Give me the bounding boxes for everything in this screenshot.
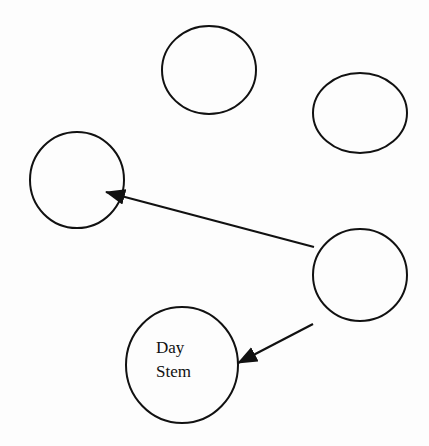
node-right — [313, 229, 407, 321]
day-stem-label: Day Stem — [156, 336, 191, 384]
edge-right-to-day-stem-arrow — [238, 324, 313, 363]
day-stem-label-line2: Stem — [156, 360, 191, 384]
node-top-right — [313, 73, 407, 153]
day-stem-label-line1: Day — [156, 336, 191, 360]
diagram-svg — [0, 0, 429, 446]
node-left — [30, 132, 124, 228]
node-top — [162, 26, 256, 114]
diagram-canvas: Day Stem — [0, 0, 429, 446]
edge-right-to-left-arrow — [106, 192, 314, 247]
